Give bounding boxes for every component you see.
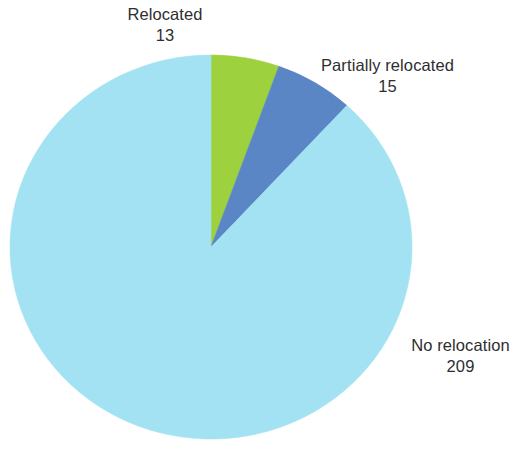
pie-slice-group — [10, 55, 412, 439]
pie-chart-figure: Relocated 13 Partially relocated 15 No r… — [0, 0, 530, 451]
pie-label-partially-relocated-name: Partially relocated — [300, 55, 475, 76]
pie-label-relocated: Relocated 13 — [0, 4, 330, 46]
pie-label-relocated-name: Relocated — [0, 4, 330, 25]
pie-label-no-relocation-value: 209 — [398, 356, 523, 377]
pie-label-relocated-value: 13 — [0, 25, 330, 46]
pie-label-partially-relocated-value: 15 — [300, 76, 475, 97]
pie-label-no-relocation-name: No relocation — [398, 335, 523, 356]
pie-label-no-relocation: No relocation 209 — [398, 335, 523, 377]
pie-label-partially-relocated: Partially relocated 15 — [300, 55, 475, 97]
pie-slice-no-relocation — [10, 55, 412, 439]
